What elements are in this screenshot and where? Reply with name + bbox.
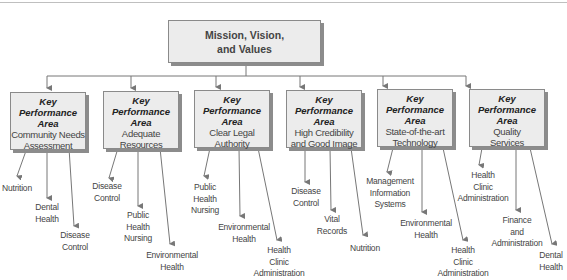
kpa-box-community-needs: Key Performance Area Community Needs Ass… <box>10 92 86 150</box>
kpa-label-area: Area <box>470 115 544 126</box>
kpa-title-line1: High Credibility <box>287 127 361 138</box>
leaf-environmental-health: Environmental Health <box>216 222 272 245</box>
leaf-disease-control: Disease Control <box>288 186 324 209</box>
leaf-health-clinic-administration: Health Clinic Administration <box>456 170 510 205</box>
leaf-public-health-nursing: Public Health Nursing <box>186 182 224 217</box>
leaf-nutrition: Nutrition <box>0 183 34 195</box>
kpa-title-line2: Resources <box>104 139 178 150</box>
kpa-title-line2: Authority <box>195 138 269 149</box>
leaf-public-health-nursing: Public Health Nursing <box>118 210 158 245</box>
kpa-box-quality-services: Key Performance Area Quality Services <box>469 89 545 147</box>
kpa-title-line1: Community Needs <box>11 129 85 140</box>
leaf-disease-control: Disease Control <box>88 181 126 204</box>
leaf-disease-control: Disease Control <box>56 230 94 253</box>
leaf-finance-and-administration: Finance and Administration <box>490 215 544 250</box>
kpa-label: Key Performance <box>104 95 178 117</box>
leaf-dental-health: Dental Health <box>28 202 66 225</box>
kpa-box-state-of-the-art: Key Performance Area State-of-the-art Te… <box>377 89 453 147</box>
kpa-label-area: Area <box>11 118 85 129</box>
kpa-title-line2: Assessment <box>11 140 85 151</box>
kpa-title-line1: Adequate <box>104 128 178 139</box>
leaf-nutrition: Nutrition <box>348 243 382 255</box>
kpa-label-area: Area <box>378 115 452 126</box>
kpa-label: Key Performance <box>11 96 85 118</box>
leaf-management-information-systems: Management Information Systems <box>365 176 415 211</box>
root-line2: and Values <box>169 42 320 56</box>
kpa-label: Key Performance <box>195 94 269 116</box>
kpa-title-line1: Quality <box>470 126 544 137</box>
kpa-label-area: Area <box>104 117 178 128</box>
kpa-label-area: Area <box>287 116 361 127</box>
root-line1: Mission, Vision, <box>169 28 320 42</box>
kpa-title-line1: State-of-the-art <box>378 126 452 137</box>
leaf-health-clinic-administration: Health Clinic Administration <box>436 245 490 280</box>
kpa-label: Key Performance <box>287 94 361 116</box>
kpa-box-high-credibility: Key Performance Area High Credibility an… <box>286 90 362 148</box>
kpa-title-line2: Technology <box>378 137 452 148</box>
leaf-dental-health: Dental Health <box>535 250 567 273</box>
leaf-vital-records: Vital Records <box>314 214 350 237</box>
kpa-title-line2: and Good Image <box>287 138 361 149</box>
leaf-environmental-health: Environmental Health <box>144 250 200 273</box>
kpa-label: Key Performance <box>378 93 452 115</box>
kpa-title-line1: Clear Legal <box>195 127 269 138</box>
kpa-box-adequate-resources: Key Performance Area Adequate Resources <box>103 91 179 149</box>
kpa-label-area: Area <box>195 116 269 127</box>
mission-vision-values-box: Mission, Vision, and Values <box>168 20 321 63</box>
kpa-label: Key Performance <box>470 93 544 115</box>
kpa-box-clear-legal-authority: Key Performance Area Clear Legal Authori… <box>194 90 270 148</box>
leaf-environmental-health: Environmental Health <box>398 218 454 241</box>
leaf-health-clinic-administration: Health Clinic Administration <box>252 245 306 280</box>
kpa-title-line2: Services <box>470 137 544 148</box>
